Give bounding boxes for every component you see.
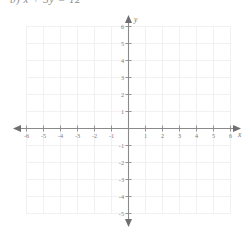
x-axis-arrow-left (13, 125, 21, 132)
y-tick-label: -4 (119, 193, 124, 200)
y-tick-label: -3 (119, 176, 124, 183)
x-tick-label: -1 (109, 132, 114, 139)
y-axis-arrow-up (125, 15, 132, 23)
x-tick-label: -3 (75, 132, 80, 139)
y-tick-label: 5 (121, 40, 124, 47)
y-tick-label: -2 (119, 159, 124, 166)
coordinate-plane-svg: -6 -5 -4 -3 -2 -1 1 2 3 4 5 6 6 5 4 3 2 … (0, 0, 248, 242)
y-axis-arrow-down (125, 219, 132, 227)
x-tick-label: 1 (144, 132, 147, 139)
y-tick-label: -1 (119, 142, 124, 149)
x-tick-label: -4 (58, 132, 63, 139)
x-tick-label: -2 (92, 132, 97, 139)
y-tick-label: 4 (121, 57, 124, 64)
x-tick-label: 3 (178, 132, 181, 139)
x-tick-label: 4 (195, 132, 198, 139)
x-tick-label: -5 (41, 132, 46, 139)
x-tick-label: 5 (212, 132, 215, 139)
y-axis (125, 15, 132, 227)
coordinate-plane: -6 -5 -4 -3 -2 -1 1 2 3 4 5 6 6 5 4 3 2 … (0, 0, 248, 242)
x-tick-label: -6 (24, 132, 29, 139)
y-axis-tick-labels: 6 5 4 3 2 1 -1 -2 -3 -4 -5 (119, 23, 124, 217)
y-tick-label: 1 (121, 108, 124, 115)
x-axis-label: x (237, 130, 242, 139)
x-tick-label: 6 (229, 132, 232, 139)
x-tick-label: 2 (161, 132, 164, 139)
x-axis (13, 125, 241, 132)
y-axis-label: y (133, 15, 138, 24)
y-tick-label: 2 (121, 91, 124, 98)
y-tick-label: 6 (121, 23, 124, 30)
y-tick-label: -5 (119, 210, 124, 217)
y-tick-label: 3 (121, 74, 124, 81)
